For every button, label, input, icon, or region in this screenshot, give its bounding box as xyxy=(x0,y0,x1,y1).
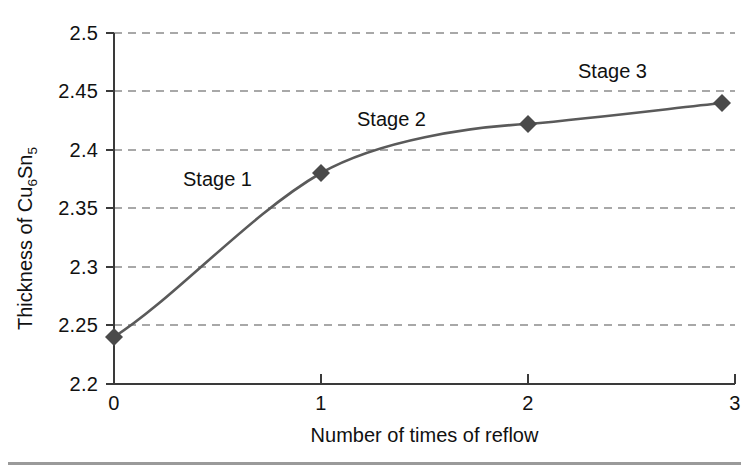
y-axis-title: Thickness of Cu6Sn5 xyxy=(14,147,40,330)
x-axis-title: Number of times of reflow xyxy=(114,424,735,447)
y-tick-label-2.25: 2.25 xyxy=(34,314,98,337)
data-point-1[interactable] xyxy=(312,164,330,182)
x-tick-label-0: 0 xyxy=(108,392,119,415)
x-axis-ticks xyxy=(114,374,735,384)
y-tick-label-2.4: 2.4 xyxy=(34,139,98,162)
figure-bottom-rule xyxy=(8,462,741,465)
y-tick-label-2.2: 2.2 xyxy=(34,373,98,396)
annotation-stage-1: Stage 1 xyxy=(183,168,252,191)
x-tick-label-3: 3 xyxy=(729,392,740,415)
data-point-3[interactable] xyxy=(713,94,731,112)
x-tick-label-1: 1 xyxy=(315,392,326,415)
y-tick-label-2.35: 2.35 xyxy=(34,197,98,220)
data-point-2[interactable] xyxy=(519,115,537,133)
chart-figure: 2.5 2.45 2.4 2.35 2.3 2.25 2.2 0 1 2 3 T… xyxy=(0,0,749,475)
y-axis-title-mid: Sn xyxy=(14,155,36,179)
data-series-line xyxy=(114,103,722,337)
y-tick-label-2.5: 2.5 xyxy=(34,22,98,45)
x-tick-label-2: 2 xyxy=(522,392,533,415)
annotation-stage-3: Stage 3 xyxy=(578,60,647,83)
y-axis-title-sub2: 5 xyxy=(25,147,40,155)
data-markers xyxy=(105,94,731,346)
annotation-stage-2: Stage 2 xyxy=(357,108,426,131)
data-point-0[interactable] xyxy=(105,328,123,346)
y-tick-label-2.45: 2.45 xyxy=(34,80,98,103)
y-axis-title-sub1: 6 xyxy=(25,179,40,187)
y-axis-title-prefix: Thickness of Cu xyxy=(14,187,36,330)
y-tick-label-2.3: 2.3 xyxy=(34,256,98,279)
